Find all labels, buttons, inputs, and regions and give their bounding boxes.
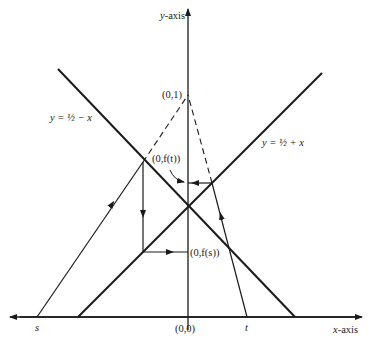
diagram-canvas: y-axis x-axis y = ½ − x y = ½ + x (0,1) … [0,0,380,341]
ft-pointer-arrow [170,170,184,182]
label-point-0-1: (0,1) [162,89,183,101]
line-half-minus-x [58,69,295,317]
y-axis-label: y-axis [159,10,185,21]
label-half-minus-x: y = ½ − x [49,112,92,123]
label-origin: (0,0) [175,323,196,335]
x-axis-label: x-axis [332,324,358,335]
label-point-f-t: (0,f(t)) [152,153,181,165]
label-s: s [35,322,39,333]
line-half-plus-x [78,73,322,317]
path-from-t [188,95,247,317]
label-point-f-s: (0,f(s)) [190,247,220,259]
label-half-plus-x: y = ½ + x [261,137,304,148]
label-t: t [245,322,249,333]
